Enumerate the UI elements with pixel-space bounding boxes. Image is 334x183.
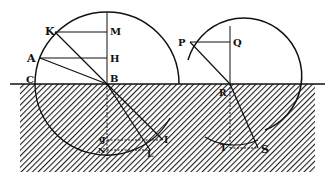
label-K: K (45, 25, 55, 38)
label-P: P (178, 37, 186, 48)
label-L: L (147, 149, 154, 159)
label-M: M (110, 26, 121, 37)
label-S: S (261, 143, 269, 156)
label-Q: Q (233, 37, 242, 48)
label-H: H (110, 53, 119, 64)
label-A: A (26, 52, 36, 65)
label-C: C (26, 74, 34, 85)
label-R: R (219, 88, 227, 98)
label-B: B (110, 73, 118, 84)
refraction-diagram: K M A H C B g N I L P Q R T S (0, 0, 334, 183)
label-T: T (220, 143, 227, 153)
label-I: I (164, 135, 168, 145)
label-N: N (98, 145, 105, 155)
label-g: g (99, 134, 106, 144)
